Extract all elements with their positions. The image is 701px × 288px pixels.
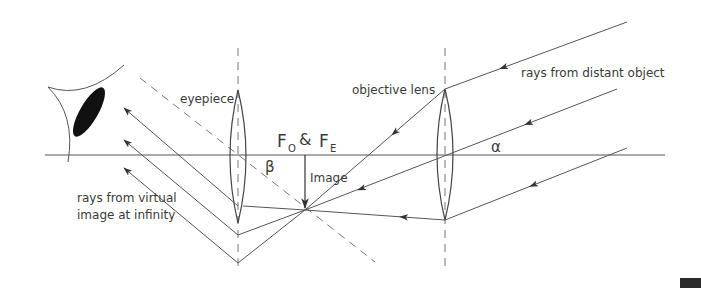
eye-icon	[48, 65, 124, 162]
corner-block	[680, 278, 701, 288]
svg-text:F: F	[277, 131, 287, 151]
rays-virtual-label-line1: rays from virtual	[77, 191, 177, 205]
svg-text:F: F	[319, 131, 329, 151]
alpha-label: α	[491, 138, 501, 156]
incoming-ray-bottom	[445, 148, 627, 220]
beta-label: β	[265, 158, 275, 176]
focus-to-eyepiece-3	[238, 210, 305, 263]
svg-text:&: &	[299, 130, 311, 149]
rays-distant-label: rays from distant object	[521, 66, 665, 80]
objective-lens-label: objective lens	[352, 83, 435, 97]
focus-to-eyepiece-1	[243, 206, 305, 210]
arrow-icon	[358, 166, 420, 190]
focus-to-eyepiece-2	[238, 210, 305, 235]
telescope-diagram: eyepiece objective lens rays from distan…	[0, 0, 701, 288]
refracted-ray-bottom	[305, 210, 445, 220]
eyepiece-label: eyepiece	[180, 92, 234, 106]
image-label: Image	[310, 171, 348, 185]
svg-text:O: O	[288, 143, 296, 154]
focus-label: F O & F E	[277, 130, 336, 154]
svg-text:E: E	[330, 143, 336, 154]
incoming-ray-middle	[305, 89, 617, 210]
beta-dashed-line	[140, 78, 375, 262]
rays-virtual-label-line2: image at infinity	[77, 208, 175, 222]
